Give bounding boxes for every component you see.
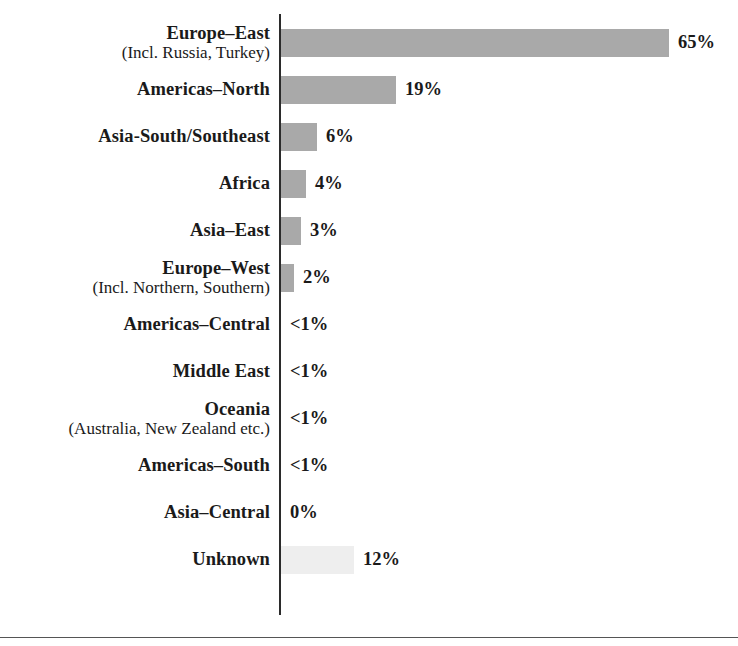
bar-row: Asia–East3% bbox=[0, 207, 738, 254]
category-label-main: Americas–Central bbox=[124, 314, 270, 335]
bar bbox=[281, 170, 306, 198]
bar-value-label: 19% bbox=[405, 79, 442, 100]
bar-value-label: <1% bbox=[290, 361, 328, 382]
bar-value-label: <1% bbox=[290, 408, 328, 429]
bar bbox=[281, 29, 669, 57]
bar-value-label: 6% bbox=[326, 126, 354, 147]
bar-row: Africa4% bbox=[0, 160, 738, 207]
category-label-main: Asia–Central bbox=[164, 502, 270, 523]
bar-and-value: 3% bbox=[281, 207, 338, 254]
category-label: Middle East bbox=[2, 348, 270, 395]
category-label-main: Americas–South bbox=[138, 455, 270, 476]
category-label-main: Africa bbox=[219, 173, 270, 194]
bar-row: Oceania(Australia, New Zealand etc.)<1% bbox=[0, 395, 738, 442]
bar bbox=[281, 217, 301, 245]
plot-area: Europe–East(Incl. Russia, Turkey)65%Amer… bbox=[0, 14, 738, 615]
category-label: Europe–East(Incl. Russia, Turkey) bbox=[2, 19, 270, 66]
bar-and-value: <1% bbox=[281, 395, 328, 442]
bar-value-label: 65% bbox=[678, 32, 715, 53]
bar-and-value: <1% bbox=[281, 442, 328, 489]
bar-and-value: <1% bbox=[281, 301, 328, 348]
bar-row: Middle East<1% bbox=[0, 348, 738, 395]
category-label-main: Europe–East bbox=[166, 23, 270, 44]
bar-row: Europe–East(Incl. Russia, Turkey)65% bbox=[0, 19, 738, 66]
bar-row: Americas–South<1% bbox=[0, 442, 738, 489]
category-label: Asia–East bbox=[2, 207, 270, 254]
category-label-main: Americas–North bbox=[137, 79, 270, 100]
category-label-main: Europe–West bbox=[162, 258, 270, 279]
bar-row: Asia–Central0% bbox=[0, 489, 738, 536]
bar bbox=[281, 123, 317, 151]
bar bbox=[281, 546, 354, 574]
bar-and-value: 2% bbox=[281, 254, 331, 301]
bar bbox=[281, 264, 294, 292]
bar-value-label: <1% bbox=[290, 314, 328, 335]
bar-and-value: 6% bbox=[281, 113, 354, 160]
category-label-sublabel: (Australia, New Zealand etc.) bbox=[68, 419, 270, 438]
bar-chart-figure: Europe–East(Incl. Russia, Turkey)65%Amer… bbox=[0, 0, 738, 646]
category-label: Unknown bbox=[2, 536, 270, 583]
category-label-sublabel: (Incl. Northern, Southern) bbox=[92, 278, 270, 297]
bar-row: Unknown12% bbox=[0, 536, 738, 583]
footer-divider-rule bbox=[0, 637, 738, 638]
category-label: Oceania(Australia, New Zealand etc.) bbox=[2, 395, 270, 442]
bar-value-label: 0% bbox=[290, 502, 318, 523]
category-label-main: Middle East bbox=[173, 361, 270, 382]
bar-and-value: 12% bbox=[281, 536, 400, 583]
category-label-main: Asia-South/Southeast bbox=[98, 126, 270, 147]
category-label-main: Unknown bbox=[192, 549, 270, 570]
bar-and-value: 4% bbox=[281, 160, 343, 207]
category-label: Africa bbox=[2, 160, 270, 207]
bar-and-value: 19% bbox=[281, 66, 442, 113]
bar-value-label: 2% bbox=[303, 267, 331, 288]
bar-row: Americas–Central<1% bbox=[0, 301, 738, 348]
category-label: Americas–South bbox=[2, 442, 270, 489]
bar-row: Europe–West(Incl. Northern, Southern)2% bbox=[0, 254, 738, 301]
bar-value-label: 3% bbox=[310, 220, 338, 241]
bar-value-label: 4% bbox=[315, 173, 343, 194]
category-label-sublabel: (Incl. Russia, Turkey) bbox=[122, 43, 270, 62]
bar bbox=[281, 76, 396, 104]
category-label: Asia–Central bbox=[2, 489, 270, 536]
bar-row: Americas–North19% bbox=[0, 66, 738, 113]
bar-and-value: 0% bbox=[281, 489, 318, 536]
category-label: Americas–North bbox=[2, 66, 270, 113]
category-label-main: Asia–East bbox=[190, 220, 270, 241]
bar-and-value: <1% bbox=[281, 348, 328, 395]
bar-value-label: <1% bbox=[290, 455, 328, 476]
bar-and-value: 65% bbox=[281, 19, 715, 66]
category-label-main: Oceania bbox=[205, 399, 270, 420]
category-label: Americas–Central bbox=[2, 301, 270, 348]
bar-value-label: 12% bbox=[363, 549, 400, 570]
bar-row: Asia-South/Southeast6% bbox=[0, 113, 738, 160]
category-label: Asia-South/Southeast bbox=[2, 113, 270, 160]
category-label: Europe–West(Incl. Northern, Southern) bbox=[2, 254, 270, 301]
